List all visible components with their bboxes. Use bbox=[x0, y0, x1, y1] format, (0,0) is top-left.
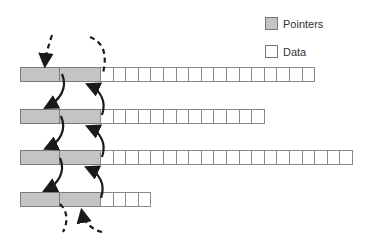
dashed-arrow-in-bottom-icon bbox=[82, 212, 102, 232]
backward-arrow-1-icon bbox=[89, 85, 104, 115]
forward-arrow-3-icon bbox=[46, 158, 62, 190]
dashed-arrow-in-left-icon bbox=[45, 35, 52, 64]
forward-arrow-1-icon bbox=[47, 74, 64, 107]
backward-arrow-3-icon bbox=[88, 168, 103, 198]
backward-arrow-2-icon bbox=[89, 127, 104, 157]
dashed-arrow-in-right-icon bbox=[90, 37, 105, 73]
dashed-arrow-out-left-icon bbox=[60, 204, 66, 232]
forward-arrow-2-icon bbox=[47, 116, 63, 148]
arrows-layer bbox=[0, 0, 390, 249]
